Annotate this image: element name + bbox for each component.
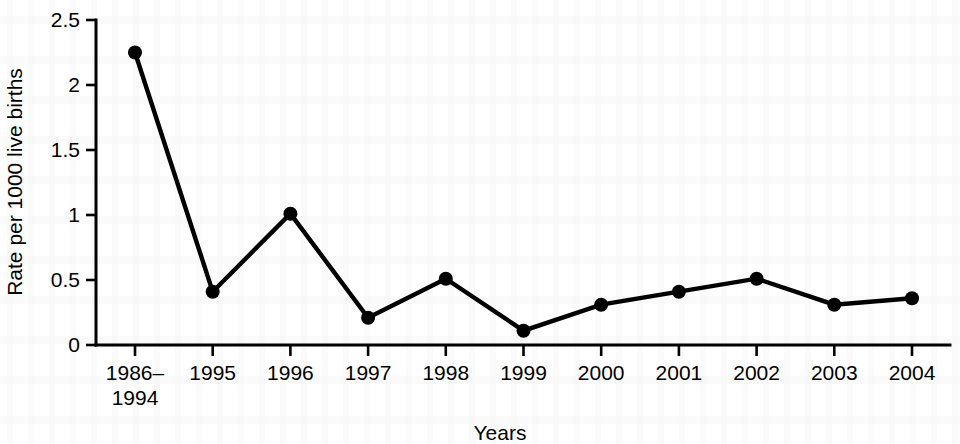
- y-tick-label-2: 1: [68, 203, 80, 226]
- x-tick-label-7: 2001: [656, 361, 703, 384]
- data-series-line: [135, 53, 912, 331]
- data-point-marker: [206, 285, 220, 299]
- x-tick-label-9: 2003: [811, 361, 858, 384]
- y-axis-title: Rate per 1000 live births: [3, 68, 26, 296]
- data-point-marker: [594, 298, 608, 312]
- data-point-marker: [750, 272, 764, 286]
- data-point-marker: [439, 272, 453, 286]
- data-point-marker: [827, 298, 841, 312]
- y-axis-group: 0 0.5 1 1.5 2 2.5 Rate per 1000 live bir…: [3, 8, 96, 356]
- y-tick-label-0: 0: [68, 333, 80, 356]
- y-tick-label-5: 2.5: [51, 8, 80, 31]
- x-tick-label-1: 1995: [189, 361, 236, 384]
- data-point-marker: [128, 46, 142, 60]
- x-axis-tick-labels: 1986–19941995199619971998199920002001200…: [106, 361, 936, 409]
- x-tick-label-2: 1996: [267, 361, 314, 384]
- x-tick-label-3: 1997: [345, 361, 392, 384]
- x-tick-label-10: 2004: [889, 361, 936, 384]
- line-chart-canvas: 0 0.5 1 1.5 2 2.5 Rate per 1000 live bir…: [0, 0, 960, 444]
- data-point-marker: [905, 291, 919, 305]
- data-point-marker: [283, 207, 297, 221]
- x-axis-ticks: [135, 345, 912, 356]
- y-tick-label-3: 1.5: [51, 138, 80, 161]
- x-tick-label-4: 1998: [422, 361, 469, 384]
- x-tick-label-5: 1999: [500, 361, 547, 384]
- data-point-marker: [361, 311, 375, 325]
- data-point-marker: [517, 324, 531, 338]
- chart-figure: 0 0.5 1 1.5 2 2.5 Rate per 1000 live bir…: [0, 0, 960, 444]
- x-tick-label-0: 1986–1994: [106, 361, 165, 409]
- x-tick-label-8: 2002: [733, 361, 780, 384]
- x-axis-title: Years: [474, 421, 527, 444]
- x-tick-label-6: 2000: [578, 361, 625, 384]
- data-point-marker: [672, 285, 686, 299]
- y-tick-label-4: 2: [68, 73, 80, 96]
- x-axis-group: 1986–19941995199619971998199920002001200…: [96, 345, 950, 444]
- y-tick-label-1: 0.5: [51, 268, 80, 291]
